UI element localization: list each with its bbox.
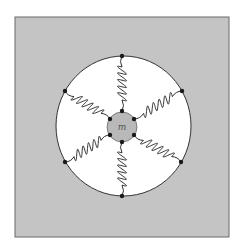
anchor-dot-top-outer	[120, 54, 124, 58]
anchor-dot-upper-left-outer	[63, 89, 67, 93]
anchor-dot-upper-right-inner	[132, 117, 136, 121]
spring-mass-diagram: m	[0, 0, 240, 248]
mass-label: m	[118, 122, 127, 132]
anchor-dot-top-inner	[120, 109, 124, 113]
anchor-dot-lower-right-inner	[132, 133, 136, 137]
anchor-dot-bottom-outer	[120, 194, 124, 198]
anchor-dot-lower-left-inner	[108, 133, 112, 137]
anchor-dot-upper-right-outer	[180, 89, 184, 93]
anchor-dot-lower-right-outer	[179, 160, 183, 164]
anchor-dot-upper-left-inner	[108, 117, 112, 121]
anchor-dot-lower-left-outer	[63, 160, 67, 164]
anchor-dot-bottom-inner	[120, 140, 124, 144]
